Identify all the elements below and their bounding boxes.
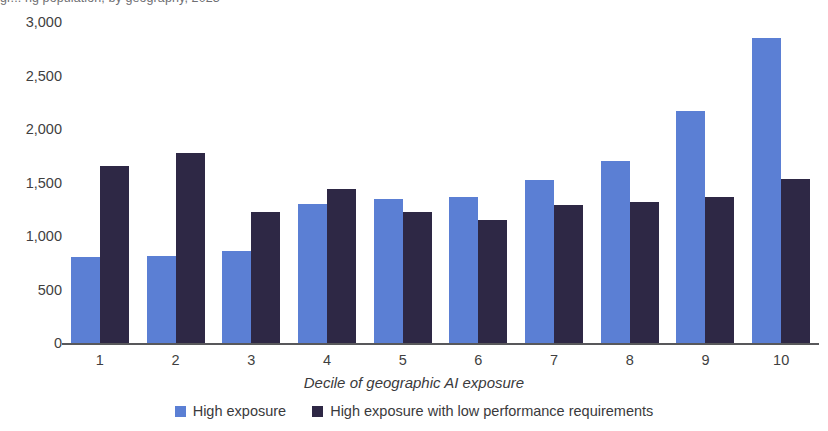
bar-group <box>365 22 441 343</box>
legend-item[interactable]: High exposure <box>175 404 287 419</box>
bar[interactable] <box>222 251 251 343</box>
x-axis-baseline <box>62 343 819 345</box>
y-axis-tick-label: 3,000 <box>4 15 62 30</box>
bar-group <box>213 22 289 343</box>
bar[interactable] <box>781 179 810 343</box>
bar[interactable] <box>525 180 554 343</box>
bar[interactable] <box>374 199 403 343</box>
bar[interactable] <box>630 202 659 343</box>
clipped-figure-title-text: gr... ng population, by geography, 2023 <box>0 0 828 5</box>
bar[interactable] <box>251 212 280 343</box>
x-axis-tick-label: 5 <box>365 350 441 372</box>
y-axis-tick-labels: 05001,0001,5002,0002,5003,000 <box>0 22 62 343</box>
x-axis-tick-label: 3 <box>213 350 289 372</box>
bar[interactable] <box>554 205 583 343</box>
bar[interactable] <box>298 204 327 343</box>
bar[interactable] <box>100 166 129 343</box>
bar-groups <box>62 22 819 343</box>
bar-group <box>441 22 517 343</box>
bar-group <box>62 22 138 343</box>
x-axis-tick-label: 2 <box>138 350 214 372</box>
x-axis-tick-label: 10 <box>743 350 819 372</box>
x-axis-tick-label: 8 <box>592 350 668 372</box>
bar-group <box>592 22 668 343</box>
legend-label: High exposure with low performance requi… <box>330 404 653 419</box>
bar-group <box>516 22 592 343</box>
bar[interactable] <box>752 38 781 343</box>
x-axis-tick-label: 6 <box>441 350 517 372</box>
bar[interactable] <box>176 153 205 343</box>
x-axis-tick-label: 9 <box>668 350 744 372</box>
bar[interactable] <box>147 256 176 343</box>
x-axis-tick-label: 1 <box>62 350 138 372</box>
bar-group <box>743 22 819 343</box>
y-axis-tick-label: 1,000 <box>4 229 62 244</box>
y-axis-tick-label: 1,500 <box>4 175 62 190</box>
bar[interactable] <box>478 220 507 343</box>
x-axis-tick-label: 4 <box>289 350 365 372</box>
bar-chart-figure: gr... ng population, by geography, 2023 … <box>0 0 828 431</box>
x-axis-tick-label: 7 <box>516 350 592 372</box>
bar-group <box>138 22 214 343</box>
bar[interactable] <box>71 257 100 343</box>
bar[interactable] <box>327 189 356 343</box>
legend-label: High exposure <box>193 404 287 419</box>
x-axis-title: Decile of geographic AI exposure <box>0 374 828 391</box>
bar[interactable] <box>449 197 478 343</box>
bar[interactable] <box>676 111 705 343</box>
y-axis-tick-label: 2,000 <box>4 122 62 137</box>
legend-swatch-icon <box>312 406 323 417</box>
y-axis-tick-label: 500 <box>4 282 62 297</box>
bar-group <box>668 22 744 343</box>
bar-group <box>289 22 365 343</box>
legend-swatch-icon <box>175 406 186 417</box>
bar[interactable] <box>705 197 734 343</box>
y-axis-tick-label: 0 <box>4 336 62 351</box>
clipped-figure-title: gr... ng population, by geography, 2023 <box>0 0 828 5</box>
bar[interactable] <box>403 212 432 343</box>
y-axis-tick-label: 2,500 <box>4 68 62 83</box>
chart-legend: High exposureHigh exposure with low perf… <box>0 404 828 419</box>
bar[interactable] <box>601 161 630 343</box>
legend-item[interactable]: High exposure with low performance requi… <box>312 404 653 419</box>
x-axis-tick-labels: 12345678910 <box>62 350 819 372</box>
